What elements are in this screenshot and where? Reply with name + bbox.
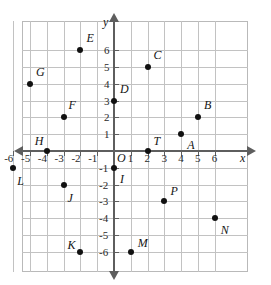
point-label-c: C [154,49,162,61]
point-l [10,165,16,171]
y-axis-label: y [103,16,108,28]
point-label-k: K [67,239,75,251]
gridline-vertical [198,21,199,272]
point-m [128,249,134,255]
point-label-l: L [17,175,24,187]
point-g [27,81,33,87]
point-b [195,114,201,120]
x-axis-label: x [240,152,245,164]
y-axis-tick [114,134,119,135]
point-label-d: D [120,83,129,95]
point-k [77,249,83,255]
point-n [212,215,218,221]
gridline-vertical [181,21,182,272]
point-j [61,182,67,188]
gridline-vertical [47,21,48,272]
y-tick-label: 5 [104,62,110,73]
coordinate-plane: -6-5-4-3-2-1123456654321-1-2-3-4-5-6 ABC… [0,0,271,285]
y-tick-label: -2 [99,180,108,191]
y-tick-label: 1 [104,129,110,140]
y-tick-label: 4 [104,79,110,90]
x-tick-label: -6 [4,153,13,164]
point-label-n: N [221,224,229,236]
y-tick-label: 6 [104,45,110,56]
point-label-p: P [170,185,177,197]
x-tick-label: 4 [178,153,184,164]
gridline-vertical [64,21,65,272]
point-label-h: H [35,135,44,147]
gridline-vertical [80,21,81,272]
y-tick-label: -4 [99,213,108,224]
point-label-b: B [204,99,211,111]
y-axis-tick [114,218,119,219]
origin-label: O [117,152,126,164]
point-a [178,131,184,137]
y-axis-tick [114,84,119,85]
x-tick-label: -3 [55,153,64,164]
point-label-f: F [69,99,76,111]
x-axis-arrow-right-icon [247,146,256,156]
point-e [77,47,83,53]
y-tick-label: -1 [99,163,108,174]
point-label-e: E [86,32,93,44]
point-t [145,148,151,154]
point-c [145,64,151,70]
point-label-m: M [138,237,148,249]
point-label-g: G [36,66,45,78]
x-tick-label: 6 [212,153,218,164]
point-p [161,198,167,204]
y-axis-arrow-up-icon [109,13,119,22]
x-tick-label: -5 [21,153,30,164]
x-tick-label: -4 [38,153,47,164]
y-axis-arrow-down-icon [109,271,119,280]
point-i [111,165,117,171]
gridline-vertical [215,21,216,272]
point-label-t: T [154,135,161,147]
x-tick-label: 5 [195,153,201,164]
y-tick-label: 3 [104,96,110,107]
gridline-vertical [131,21,132,272]
point-label-j: J [68,192,73,204]
gridline-horizontal [22,50,248,51]
x-tick-label: -2 [71,153,80,164]
y-tick-label: -3 [99,196,108,207]
x-tick-label: 1 [128,153,134,164]
y-tick-label: 2 [104,112,110,123]
point-h [44,148,50,154]
y-axis-tick [114,235,119,236]
y-tick-label: -6 [99,247,108,258]
y-tick-label: -5 [99,230,108,241]
gridline-vertical [148,21,149,272]
x-tick-label: 2 [145,153,151,164]
y-axis-tick [114,185,119,186]
point-d [111,98,117,104]
y-axis-tick [114,252,119,253]
y-axis-tick [114,67,119,68]
y-axis-tick [114,201,119,202]
x-tick-label: -1 [88,153,97,164]
y-axis-tick [114,117,119,118]
point-label-i: I [120,173,124,185]
x-tick-label: 3 [161,153,167,164]
gridline-vertical [164,21,165,272]
point-f [61,114,67,120]
y-axis-tick [114,50,119,51]
point-label-a: A [187,139,194,151]
